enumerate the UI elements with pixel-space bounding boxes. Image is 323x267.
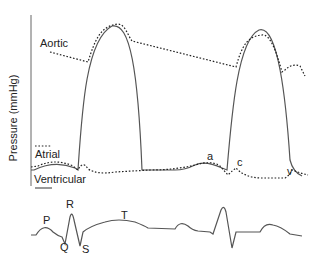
v-wave-label: v — [287, 165, 293, 177]
ecg-p-label: P — [43, 214, 50, 226]
ventricular-pressure-trace — [31, 26, 302, 176]
y-axis-label: Pressure (mmHg) — [7, 75, 19, 162]
atrial-label: Atrial — [35, 148, 60, 160]
a-wave-label: a — [207, 150, 214, 162]
ventricular-label: Ventricular — [34, 173, 86, 185]
aortic-label: Aortic — [40, 37, 69, 49]
ecg-s-label: S — [82, 243, 89, 255]
cardiac-cycle-diagram: Pressure (mmHg) Atrial Ventricular Aorti… — [0, 0, 323, 267]
ecg-t-label: T — [121, 209, 128, 221]
ecg-trace — [31, 207, 302, 248]
ecg-r-label: R — [66, 198, 74, 210]
ecg-q-label: Q — [60, 241, 69, 253]
c-wave-label: c — [237, 156, 243, 168]
